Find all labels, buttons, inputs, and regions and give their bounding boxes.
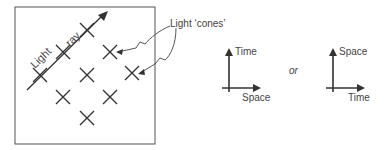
axes-right [326, 53, 360, 92]
axis-right-x-label: Time [348, 92, 370, 103]
callout-arrow-2 [140, 28, 176, 73]
cone-crosses [33, 23, 139, 125]
light-ray-arrowhead [98, 11, 108, 21]
callout-label: Light ‘cones’ [170, 18, 226, 29]
axis-left-y-label: Time [235, 46, 257, 57]
axis-right-y-label: Space [339, 46, 367, 57]
axis-left-x-label: Space [242, 92, 270, 103]
callout-arrow-1 [118, 26, 170, 52]
or-connector: or [289, 65, 298, 76]
axes-left [222, 53, 256, 92]
